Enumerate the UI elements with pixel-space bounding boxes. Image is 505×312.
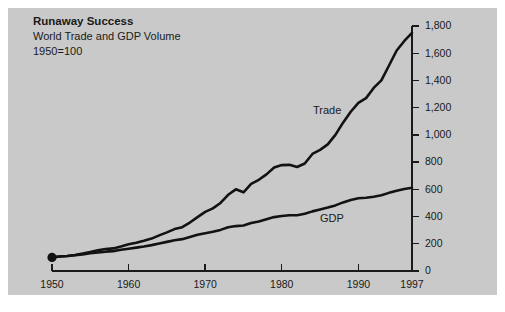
y-tick-label: 400: [425, 210, 443, 222]
chart-svg: Runaway Success World Trade and GDP Volu…: [0, 0, 505, 312]
y-tick-label: 0: [425, 264, 431, 276]
y-tick-label: 1,400: [425, 74, 451, 86]
chart-figure: Runaway Success World Trade and GDP Volu…: [0, 0, 505, 312]
y-tick-label: 1,000: [425, 128, 451, 140]
y-tick-label: 1,200: [425, 101, 451, 113]
x-tick-label: 1960: [117, 278, 141, 290]
x-tick-label: 1970: [194, 278, 218, 290]
series-labels: TradeGDP: [313, 104, 344, 224]
x-tick-label: 1950: [40, 278, 64, 290]
y-tick-label: 600: [425, 183, 443, 195]
x-tick-label: 1980: [270, 278, 294, 290]
chart-subtitle: World Trade and GDP Volume: [33, 30, 181, 42]
y-axis: 02004006008001,0001,2001,4001,6001,800: [412, 19, 451, 276]
x-tick-label: 1990: [347, 278, 371, 290]
series-line-trade: [52, 33, 412, 258]
chart-baseline-note: 1950=100: [33, 45, 82, 57]
x-tick-label: 1997: [400, 278, 424, 290]
origin-dot: [47, 253, 56, 262]
y-tick-label: 1,800: [425, 19, 451, 31]
y-tick-label: 200: [425, 237, 443, 249]
series-line-gdp: [52, 188, 412, 258]
x-axis: 195019601970198019901997: [40, 264, 424, 290]
series-label-gdp: GDP: [320, 212, 344, 224]
series-lines: [52, 33, 412, 258]
y-tick-label: 1,600: [425, 47, 451, 59]
y-tick-label: 800: [425, 155, 443, 167]
series-label-trade: Trade: [313, 104, 341, 116]
chart-markers: [47, 253, 56, 262]
page-title: Runaway Success: [33, 15, 133, 27]
